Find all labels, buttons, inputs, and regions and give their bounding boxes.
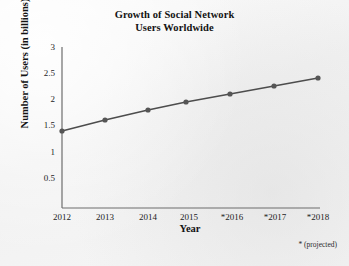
x-tick-2014: 2014 <box>139 212 157 222</box>
data-point-2012 <box>59 128 64 133</box>
x-tick-2013: 2013 <box>96 212 114 222</box>
axes <box>62 47 320 208</box>
x-tick-2015: 2015 <box>180 212 198 222</box>
data-point-2018 <box>315 75 320 80</box>
x-tick-2017: *2017 <box>264 212 287 222</box>
x-axis-title: Year <box>62 223 318 234</box>
x-tick-2016: *2016 <box>221 212 244 222</box>
plot-area <box>62 47 318 208</box>
projected-footnote: * (projected) <box>298 240 337 249</box>
x-tick-2018: *2018 <box>307 212 330 222</box>
line-chart-svg <box>62 47 324 213</box>
data-point-2016 <box>227 91 232 96</box>
y-axis-title: Number of Users (in billions) <box>19 0 30 149</box>
data-point-2015 <box>183 99 188 104</box>
data-point-2017 <box>271 83 276 88</box>
data-point-2013 <box>102 117 107 122</box>
series-line <box>62 78 318 131</box>
x-tick-2012: 2012 <box>53 212 71 222</box>
data-point-2014 <box>145 107 150 112</box>
data-series-social-network-users <box>59 75 320 133</box>
chart-figure: Growth of Social Network Users Worldwide… <box>0 0 349 266</box>
